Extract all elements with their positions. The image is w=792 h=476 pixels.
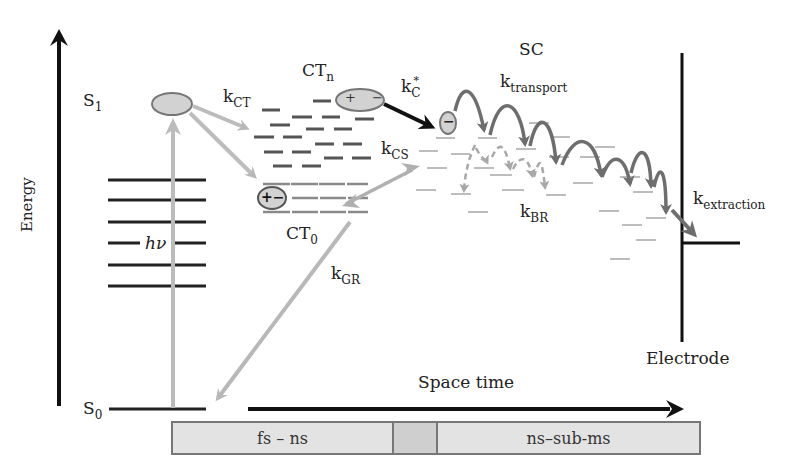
ctn-charge-signs: + − — [345, 91, 389, 104]
hv-label: hν — [144, 235, 167, 252]
kc-star-label: kC* — [401, 78, 419, 95]
kcs-double-arrow — [342, 163, 420, 208]
sc-levels — [416, 123, 666, 259]
energy-diagram — [0, 0, 792, 476]
s0-label: S0 — [83, 400, 102, 417]
excitation-arrow — [165, 118, 181, 408]
timescale-ns-sub-ms: ns–sub-ms — [436, 421, 701, 455]
ct0-label: CT0 — [286, 225, 318, 242]
space-time-axis — [248, 400, 684, 418]
ctn-label: CTn — [302, 62, 334, 79]
ct0-charge-signs: +− — [261, 190, 284, 204]
transport-hops — [455, 91, 666, 212]
space-time-label: Space time — [418, 374, 514, 391]
s1-label: S1 — [83, 92, 102, 109]
energy-axis — [50, 29, 68, 406]
kcs-label: kCS — [381, 140, 409, 157]
kbr-label: kBR — [520, 203, 548, 220]
sc-label: SC — [519, 41, 544, 58]
timescale-overlap — [392, 421, 438, 455]
kextraction-label: kextraction — [693, 190, 765, 207]
kct-label: kCT — [223, 88, 251, 105]
energy-axis-label: Energy — [18, 177, 36, 232]
timescale-fs-ns: fs – ns — [171, 421, 394, 455]
electrode-label: Electrode — [646, 350, 730, 367]
ktransport-label: ktransport — [500, 73, 567, 90]
s1-exciton — [152, 93, 192, 115]
kgr-arrow — [218, 222, 350, 398]
electron-sign: − — [443, 114, 455, 128]
kgr-label: kGR — [331, 265, 360, 282]
kct-arrow-lower — [190, 113, 254, 176]
kc-star-arrow — [384, 104, 430, 126]
